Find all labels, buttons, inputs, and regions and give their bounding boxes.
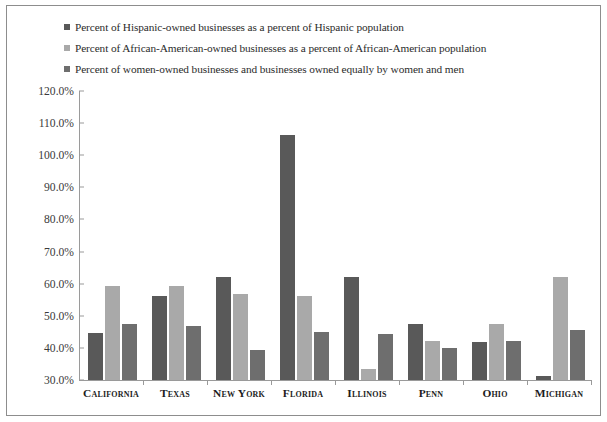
x-axis-tick-mark <box>143 380 144 385</box>
bar[interactable] <box>314 332 329 380</box>
bar[interactable] <box>472 342 487 380</box>
x-axis-category-label: Illinois <box>335 387 399 399</box>
bar[interactable] <box>425 341 440 380</box>
x-axis-tick-mark <box>591 380 592 385</box>
bar[interactable] <box>88 333 103 380</box>
x-axis-tick-mark <box>463 380 464 385</box>
bar[interactable] <box>489 324 504 381</box>
y-axis-tick-label: 90.0% <box>44 181 74 194</box>
y-axis-tick-label: 120.0% <box>38 85 74 98</box>
bar[interactable] <box>408 324 423 380</box>
x-axis-category-label: Penn <box>399 387 463 399</box>
bar[interactable] <box>553 277 568 380</box>
y-axis-tick-label: 110.0% <box>39 117 74 130</box>
y-axis-tick-label: 50.0% <box>44 309 74 322</box>
y-axis-tick-mark <box>79 91 84 92</box>
bar-group <box>80 91 144 380</box>
x-axis-category-label: Ohio <box>463 387 527 399</box>
y-axis-tick-mark <box>79 315 84 316</box>
y-axis-tick-mark <box>79 380 84 381</box>
y-axis-tick-label: 70.0% <box>44 245 74 258</box>
y-axis-tick-label: 60.0% <box>44 277 74 290</box>
y-axis-tick-label: 30.0% <box>44 374 74 387</box>
bar-group <box>528 91 592 380</box>
bar-group <box>272 91 336 380</box>
y-axis-labels: 120.0%110.0%100.0%90.0%80.0%70.0%60.0%50… <box>0 91 74 380</box>
bar[interactable] <box>506 341 521 380</box>
bar-group <box>400 91 464 380</box>
y-axis-tick-mark <box>79 347 84 348</box>
bar-group <box>208 91 272 380</box>
bar[interactable] <box>442 348 457 380</box>
x-axis-category-label: California <box>79 387 143 399</box>
y-axis-tick-label: 100.0% <box>38 149 74 162</box>
bar[interactable] <box>297 296 312 380</box>
x-axis-category-label: Texas <box>143 387 207 399</box>
bar[interactable] <box>122 324 137 380</box>
plot-area <box>79 91 592 381</box>
bar[interactable] <box>250 350 265 380</box>
bar[interactable] <box>280 135 295 380</box>
bar[interactable] <box>152 296 167 380</box>
bar[interactable] <box>105 286 120 380</box>
x-axis-tick-mark <box>527 380 528 385</box>
x-axis-tick-mark <box>399 380 400 385</box>
x-axis-tick-mark <box>271 380 272 385</box>
bar[interactable] <box>216 277 231 380</box>
y-axis-tick-mark <box>79 251 84 252</box>
bar-chart: Percent of Hispanic-owned businesses as … <box>0 0 607 422</box>
bar[interactable] <box>233 294 248 380</box>
bar[interactable] <box>570 330 585 380</box>
bar[interactable] <box>186 326 201 380</box>
y-axis-tick-mark <box>79 187 84 188</box>
bar-group <box>464 91 528 380</box>
x-axis-category-label: New York <box>207 387 271 399</box>
y-axis-tick-mark <box>79 155 84 156</box>
bar-group <box>336 91 400 380</box>
bar[interactable] <box>536 376 551 380</box>
bar[interactable] <box>378 334 393 380</box>
y-axis-tick-mark <box>79 123 84 124</box>
x-axis-category-label: Michigan <box>527 387 591 399</box>
x-axis-category-label: Florida <box>271 387 335 399</box>
y-axis-tick-label: 40.0% <box>44 341 74 354</box>
bar[interactable] <box>344 277 359 380</box>
bar[interactable] <box>361 369 376 380</box>
x-axis-tick-mark <box>335 380 336 385</box>
y-axis-tick-mark <box>79 283 84 284</box>
x-axis-tick-mark <box>207 380 208 385</box>
y-axis-tick-mark <box>79 219 84 220</box>
y-axis-tick-label: 80.0% <box>44 213 74 226</box>
plot-wrapper: 120.0%110.0%100.0%90.0%80.0%70.0%60.0%50… <box>0 0 607 422</box>
bar-group <box>144 91 208 380</box>
bar[interactable] <box>169 286 184 380</box>
